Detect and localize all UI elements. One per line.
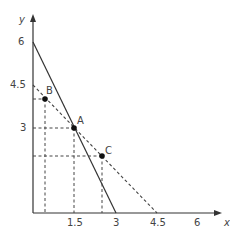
- y-axis-label: y: [19, 15, 25, 25]
- x-tick-1-5: 1.5: [67, 218, 83, 228]
- guide-lines: [33, 99, 102, 213]
- point-a: [71, 125, 77, 131]
- x-tick-4-5: 4.5: [150, 218, 166, 228]
- x-tick-3: 3: [113, 218, 119, 228]
- chart-canvas: [0, 0, 230, 241]
- axes: [33, 18, 218, 213]
- dashed-line: [33, 85, 157, 213]
- y-tick-3: 3: [20, 123, 26, 133]
- y-tick-6: 6: [18, 37, 24, 47]
- point-label-a: A: [77, 116, 84, 126]
- x-axis-label: x: [224, 218, 230, 228]
- y-axis-arrow-icon: [30, 14, 36, 22]
- point-c: [99, 153, 105, 159]
- point-label-c: C: [105, 146, 112, 156]
- point-label-b: B: [46, 86, 53, 96]
- x-tick-6: 6: [194, 218, 200, 228]
- y-tick-4-5: 4.5: [10, 80, 26, 90]
- x-axis-arrow-icon: [214, 210, 222, 216]
- point-b: [42, 96, 48, 102]
